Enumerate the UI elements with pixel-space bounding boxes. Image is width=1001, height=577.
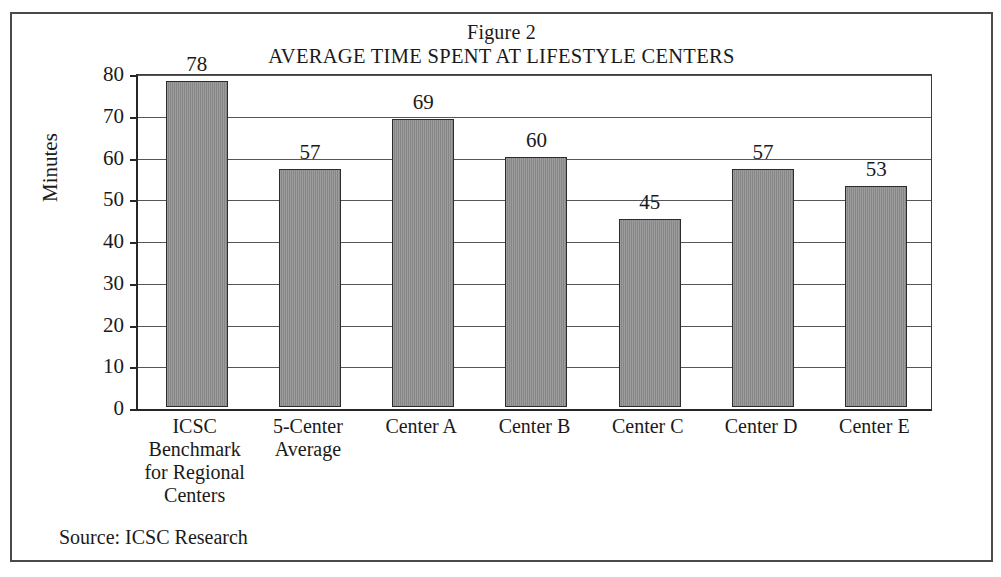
y-axis-tick bbox=[130, 242, 137, 244]
y-axis-tick-label: 10 bbox=[84, 356, 124, 377]
y-axis-tick bbox=[130, 367, 137, 369]
bar-slot: 53 bbox=[820, 75, 933, 407]
y-axis-tick-label: 70 bbox=[84, 106, 124, 127]
x-axis-label: Center A bbox=[365, 415, 478, 438]
bar-value-label: 57 bbox=[753, 142, 774, 163]
bar[interactable] bbox=[279, 169, 341, 407]
figure-title: AVERAGE TIME SPENT AT LIFESTYLE CENTERS bbox=[12, 44, 991, 69]
x-axis-label-line: Center E bbox=[818, 415, 931, 438]
x-axis-label-line: Average bbox=[251, 438, 364, 461]
bar-slot: 78 bbox=[140, 75, 253, 407]
y-axis-tick-label: 0 bbox=[84, 398, 124, 419]
bar-slot: 69 bbox=[367, 75, 480, 407]
x-axis-label: ICSCBenchmarkfor RegionalCenters bbox=[138, 415, 251, 507]
x-axis-label: 5-CenterAverage bbox=[251, 415, 364, 461]
x-axis-label-line: for Regional bbox=[138, 461, 251, 484]
x-axis-label-line: Center B bbox=[478, 415, 591, 438]
x-axis-label-line: Benchmark bbox=[138, 438, 251, 461]
bar-value-label: 53 bbox=[866, 159, 887, 180]
y-axis-tick bbox=[130, 200, 137, 202]
x-axis-label-line: Center C bbox=[591, 415, 704, 438]
figure-frame: Figure 2 AVERAGE TIME SPENT AT LIFESTYLE… bbox=[10, 12, 993, 562]
x-axis-label-line: Center D bbox=[704, 415, 817, 438]
x-axis-label-line: Center A bbox=[365, 415, 478, 438]
bar[interactable] bbox=[619, 219, 681, 407]
x-axis-label-line: 5-Center bbox=[251, 415, 364, 438]
y-axis-tick bbox=[130, 117, 137, 119]
bar-value-label: 78 bbox=[186, 54, 207, 75]
x-axis-label-line: ICSC bbox=[138, 415, 251, 438]
bar-slot: 45 bbox=[593, 75, 706, 407]
x-axis-label: Center E bbox=[818, 415, 931, 438]
figure-title-block: Figure 2 AVERAGE TIME SPENT AT LIFESTYLE… bbox=[12, 20, 991, 69]
y-axis-tick bbox=[130, 409, 137, 411]
source-note: Source: ICSC Research bbox=[59, 526, 248, 549]
bar[interactable] bbox=[732, 169, 794, 407]
x-axis-labels-group: ICSCBenchmarkfor RegionalCenters5-Center… bbox=[138, 415, 934, 515]
bar[interactable] bbox=[392, 119, 454, 407]
figure-number: Figure 2 bbox=[12, 20, 991, 44]
bar-value-label: 45 bbox=[639, 192, 660, 213]
bar-value-label: 69 bbox=[413, 92, 434, 113]
y-axis-tick bbox=[130, 75, 137, 77]
y-axis-tick-label: 80 bbox=[84, 64, 124, 85]
y-axis-tick-label: 60 bbox=[84, 148, 124, 169]
bar-slot: 57 bbox=[706, 75, 819, 407]
y-axis-tick-label: 40 bbox=[84, 231, 124, 252]
bar[interactable] bbox=[505, 157, 567, 408]
y-axis-tick-label: 30 bbox=[84, 273, 124, 294]
x-axis-label: Center C bbox=[591, 415, 704, 438]
x-axis-label: Center B bbox=[478, 415, 591, 438]
x-axis-label: Center D bbox=[704, 415, 817, 438]
y-axis-tick bbox=[130, 326, 137, 328]
x-axis-label-line: Centers bbox=[138, 484, 251, 507]
bars-group: 78576960455753 bbox=[140, 75, 930, 407]
y-axis-title: Minutes bbox=[38, 133, 63, 202]
y-axis-tick-label: 20 bbox=[84, 315, 124, 336]
y-axis-tick bbox=[130, 284, 137, 286]
bar-slot: 57 bbox=[253, 75, 366, 407]
bar[interactable] bbox=[166, 81, 228, 407]
bar-value-label: 57 bbox=[299, 142, 320, 163]
y-axis-tick bbox=[130, 159, 137, 161]
y-axis-tick-label: 50 bbox=[84, 189, 124, 210]
bar-slot: 60 bbox=[480, 75, 593, 407]
bar-value-label: 60 bbox=[526, 130, 547, 151]
plot-area: 01020304050607080 78576960455753 bbox=[136, 74, 932, 411]
bar[interactable] bbox=[845, 186, 907, 407]
